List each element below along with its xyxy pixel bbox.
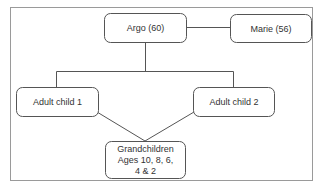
node-adult-child-2: Adult child 2 — [193, 87, 275, 117]
node-argo: Argo (60) — [104, 13, 187, 43]
node-grandchildren-title: Grandchildren — [117, 144, 174, 155]
child1-grandchildren-connector — [97, 112, 145, 141]
node-marie-label: Marie (56) — [250, 24, 291, 34]
node-adult-child-2-label: Adult child 2 — [209, 97, 258, 107]
node-adult-child-1-label: Adult child 1 — [33, 97, 82, 107]
node-marie: Marie (56) — [230, 14, 312, 43]
node-argo-label: Argo (60) — [127, 23, 165, 33]
node-grandchildren-ages: Ages 10, 8, 6, — [118, 155, 174, 166]
node-grandchildren-ages-cont: 4 & 2 — [135, 166, 156, 177]
node-adult-child-1: Adult child 1 — [16, 87, 99, 117]
child2-grandchildren-connector — [145, 112, 194, 141]
node-grandchildren: Grandchildren Ages 10, 8, 6, 4 & 2 — [105, 141, 186, 179]
